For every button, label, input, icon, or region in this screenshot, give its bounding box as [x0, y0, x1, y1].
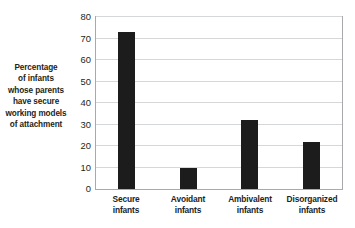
x-axis-label-1: Avoidantinfants: [157, 194, 219, 216]
bar-2[interactable]: [241, 120, 258, 189]
x-axis-label-0-line-0: Secure: [95, 194, 157, 205]
x-axis-label-1-line-1: infants: [157, 205, 219, 216]
x-axis-label-3-line-0: Disorganized: [281, 194, 343, 205]
bar-3[interactable]: [303, 142, 320, 189]
bar-slot-1: [158, 17, 220, 189]
bar-slot-0: [96, 17, 158, 189]
y-tick-label-40: 40: [81, 97, 91, 108]
y-axis-label-line-4: working models: [0, 108, 72, 119]
bar-slot-3: [281, 17, 343, 189]
y-tick-label-30: 30: [81, 118, 91, 129]
plot-area: 01020304050607080: [95, 16, 343, 190]
y-axis-label-line-5: of attachment: [0, 119, 72, 130]
y-tick-label-10: 10: [81, 161, 91, 172]
y-tick-label-70: 70: [81, 32, 91, 43]
y-tick-label-50: 50: [81, 75, 91, 86]
x-axis-label-0: Secureinfants: [95, 194, 157, 216]
bar-slot-2: [219, 17, 281, 189]
x-axis-label-2-line-0: Ambivalent: [219, 194, 281, 205]
y-tick-label-80: 80: [81, 11, 91, 22]
bar-1[interactable]: [180, 168, 197, 190]
x-axis-label-0-line-1: infants: [95, 205, 157, 216]
x-axis-label-1-line-0: Avoidant: [157, 194, 219, 205]
y-tick-label-60: 60: [81, 54, 91, 65]
y-tick-label-0: 0: [86, 183, 91, 194]
x-axis-label-group: SecureinfantsAvoidantinfantsAmbivalentin…: [95, 194, 343, 216]
bar-0[interactable]: [118, 32, 135, 189]
x-axis-label-2-line-1: infants: [219, 205, 281, 216]
x-axis-label-2: Ambivalentinfants: [219, 194, 281, 216]
x-axis-label-3-line-1: infants: [281, 205, 343, 216]
y-axis-label-line-2: whose parents: [0, 85, 72, 96]
y-axis-label: Percentageof infantswhose parentshave se…: [0, 62, 72, 130]
y-axis-label-line-1: of infants: [0, 73, 72, 84]
y-axis-label-line-3: have secure: [0, 96, 72, 107]
x-axis-label-3: Disorganizedinfants: [281, 194, 343, 216]
y-axis-label-line-0: Percentage: [0, 62, 72, 73]
bar-chart-figure: Percentageof infantswhose parentshave se…: [0, 0, 355, 228]
y-tick-label-20: 20: [81, 140, 91, 151]
bar-group: [96, 17, 342, 189]
